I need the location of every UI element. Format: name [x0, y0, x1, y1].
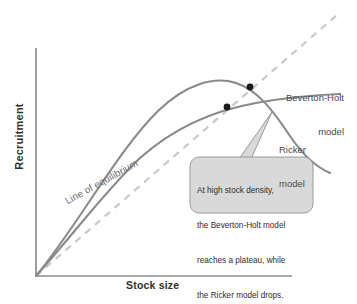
marker-beverton-holt-equilibrium — [224, 104, 231, 111]
marker-ricker-equilibrium — [247, 84, 254, 91]
beverton-holt-label-line-1: Beverton-Holt — [272, 92, 344, 103]
callout-line-2: the Beverton-Holt model — [197, 220, 309, 232]
callout-line-4: the Ricker model drops. — [197, 290, 309, 302]
x-axis-label: Stock size — [126, 279, 179, 291]
callout-line-3: reaches a plateau, while — [197, 255, 309, 267]
callout-line-1: At high stock density, — [197, 185, 309, 197]
ricker-label-line-1: Ricker — [279, 144, 339, 155]
y-axis-label: Recruitment — [13, 91, 26, 181]
callout-pointer — [239, 112, 272, 159]
callout-text: At high stock density, the Beverton-Holt… — [197, 162, 309, 304]
